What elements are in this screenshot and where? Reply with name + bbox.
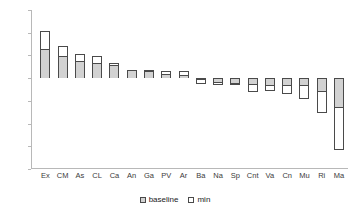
- x-axis-labels: ExCMAsCLCaAnGaPVArBaNaSpCntVaCnMuRiMa: [31, 172, 348, 184]
- bar-baseline-marker: [128, 70, 136, 71]
- x-tick-label-ri: Ri: [318, 172, 325, 180]
- x-tick-label-pv: PV: [161, 172, 171, 180]
- plot-area: 15%10%5%0%-5%-10%-15%-20%: [31, 10, 348, 169]
- x-tick-label-cl: CL: [92, 172, 102, 180]
- bar-baseline-marker: [41, 49, 49, 50]
- x-tick-label-ex: Ex: [41, 172, 50, 180]
- bar-baseline-marker: [214, 82, 222, 83]
- x-tick-label-ba: Ba: [196, 172, 205, 180]
- bar-shaded-region: [110, 65, 118, 78]
- bar-ga[interactable]: [144, 70, 154, 79]
- bar-shaded-region: [128, 70, 136, 78]
- x-tick-label-ma: Ma: [334, 172, 344, 180]
- bar-baseline-marker: [162, 74, 170, 75]
- chart-container: 15%10%5%0%-5%-10%-15%-20% ExCMAsCLCaAnGa…: [0, 0, 350, 213]
- x-axis-line: [31, 168, 348, 169]
- legend-swatch-baseline-icon: [140, 197, 146, 203]
- bar-ca[interactable]: [109, 63, 119, 78]
- bar-shaded-region: [145, 71, 153, 78]
- legend-item-min[interactable]: min: [188, 196, 210, 204]
- bar-baseline-marker: [145, 71, 153, 72]
- bar-cm[interactable]: [58, 46, 68, 78]
- legend-label-baseline: baseline: [149, 196, 179, 204]
- x-tick-label-cnt: Cnt: [247, 172, 259, 180]
- y-tick-mark: [28, 33, 31, 34]
- bar-shaded-region: [41, 49, 49, 78]
- bar-shaded-region: [93, 63, 101, 78]
- y-tick-mark: [28, 10, 31, 11]
- bar-shaded-region: [318, 79, 326, 91]
- y-tick-mark: [28, 169, 31, 170]
- x-tick-label-ar: Ar: [180, 172, 188, 180]
- bar-baseline-marker: [76, 61, 84, 62]
- bar-sp[interactable]: [230, 78, 240, 85]
- bar-ex[interactable]: [40, 31, 50, 78]
- bar-baseline-marker: [283, 85, 291, 86]
- bar-ri[interactable]: [317, 78, 327, 113]
- x-tick-label-as: As: [75, 172, 84, 180]
- bar-baseline-marker: [266, 85, 274, 86]
- legend-swatch-min-icon: [188, 197, 194, 203]
- x-tick-label-ga: Ga: [144, 172, 154, 180]
- x-tick-label-va: Va: [266, 172, 275, 180]
- x-tick-label-cn: Cn: [282, 172, 292, 180]
- x-tick-label-mu: Mu: [299, 172, 309, 180]
- bar-pv[interactable]: [161, 71, 171, 78]
- y-tick-mark: [28, 124, 31, 125]
- bar-an[interactable]: [127, 70, 137, 79]
- chart-legend: baseline min: [0, 196, 350, 204]
- bar-as[interactable]: [75, 54, 85, 78]
- bar-baseline-marker: [335, 107, 343, 108]
- bar-cn[interactable]: [282, 78, 292, 94]
- y-tick-mark: [28, 101, 31, 102]
- bar-baseline-marker: [318, 91, 326, 92]
- bar-na[interactable]: [213, 78, 223, 85]
- bar-baseline-marker: [93, 63, 101, 64]
- legend-item-baseline[interactable]: baseline: [140, 196, 179, 204]
- legend-label-min: min: [197, 196, 210, 204]
- bar-cl[interactable]: [92, 56, 102, 78]
- bar-baseline-marker: [197, 79, 205, 80]
- bar-ma[interactable]: [334, 78, 344, 150]
- y-tick-mark: [28, 55, 31, 56]
- bar-shaded-region: [76, 61, 84, 78]
- y-axis-line: [31, 10, 32, 169]
- x-tick-label-na: Na: [213, 172, 223, 180]
- x-tick-label-sp: Sp: [231, 172, 240, 180]
- x-tick-label-ca: Ca: [110, 172, 120, 180]
- bar-cnt[interactable]: [248, 78, 258, 92]
- bar-baseline-marker: [231, 83, 239, 84]
- x-tick-label-an: An: [127, 172, 136, 180]
- bar-ba[interactable]: [196, 78, 206, 83]
- x-tick-label-cm: CM: [57, 172, 69, 180]
- bar-mu[interactable]: [299, 78, 309, 99]
- bar-shaded-region: [59, 56, 67, 78]
- y-tick-mark: [28, 78, 31, 79]
- bar-baseline-marker: [110, 65, 118, 66]
- y-tick-mark: [28, 146, 31, 147]
- bar-shaded-region: [335, 79, 343, 107]
- bar-baseline-marker: [300, 85, 308, 86]
- bar-baseline-marker: [249, 84, 257, 85]
- bar-ar[interactable]: [179, 71, 189, 78]
- bar-va[interactable]: [265, 78, 275, 91]
- bar-baseline-marker: [59, 56, 67, 57]
- bar-baseline-marker: [180, 75, 188, 76]
